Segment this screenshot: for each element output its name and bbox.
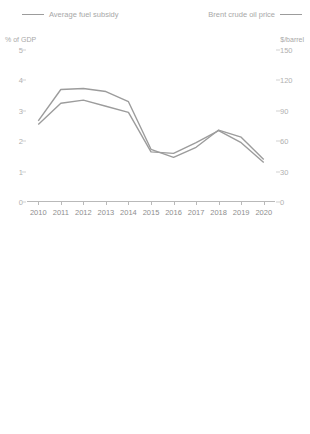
x-tick-mark xyxy=(83,202,84,205)
y-tick-mark xyxy=(22,141,26,142)
x-tick-mark xyxy=(196,202,197,205)
line-brent-crude-oil-price xyxy=(38,89,263,160)
x-tick-label: 2020 xyxy=(255,208,272,217)
x-tick-mark xyxy=(241,202,242,205)
x-tick-label: 2010 xyxy=(30,208,47,217)
x-tick-mark xyxy=(106,202,107,205)
x-tick-mark xyxy=(38,202,39,205)
top-line-series xyxy=(27,50,275,202)
line-average-fuel-subsidy xyxy=(38,100,263,162)
x-tick-label: 2018 xyxy=(210,208,227,217)
legend-line-icon xyxy=(22,14,44,16)
y2-tick-mark xyxy=(276,202,280,203)
x-tick-label: 2015 xyxy=(143,208,160,217)
legend-label: Average fuel subsidy xyxy=(49,10,119,19)
y2-tick-mark xyxy=(276,110,280,111)
y2-tick-label: 120 xyxy=(280,76,293,85)
x-tick-mark xyxy=(264,202,265,205)
legend-label: Brent crude oil price xyxy=(208,10,275,19)
x-tick-mark xyxy=(174,202,175,205)
y-tick-mark xyxy=(22,110,26,111)
y2-tick-label: 150 xyxy=(280,46,293,55)
x-tick-label: 2014 xyxy=(120,208,137,217)
x-tick-label: 2012 xyxy=(75,208,92,217)
x-tick-mark xyxy=(128,202,129,205)
y-tick-mark xyxy=(22,171,26,172)
fuel-subsidy-by-country-chart: 2010 2020 % of GDP 024681012 UZBTKMKAZAZ… xyxy=(0,232,310,434)
y2-tick-mark xyxy=(276,50,280,51)
legend-item-brent-crude-oil-price: Brent crude oil price xyxy=(208,10,302,19)
fuel-subsidy-oil-price-chart: Average fuel subsidy Brent crude oil pri… xyxy=(0,0,310,222)
y-tick-mark xyxy=(22,50,26,51)
y2-tick-label: 0 xyxy=(280,198,284,207)
y2-tick-label: 60 xyxy=(280,137,288,146)
legend-item-average-fuel-subsidy: Average fuel subsidy xyxy=(22,10,119,19)
top-y-axis-right-title: $/barrel xyxy=(280,36,304,43)
y2-tick-label: 30 xyxy=(280,167,288,176)
y-tick-mark xyxy=(22,80,26,81)
y2-tick-mark xyxy=(276,80,280,81)
x-tick-label: 2019 xyxy=(233,208,250,217)
top-y-axis-left-title: % of GDP xyxy=(5,36,36,43)
x-tick-mark xyxy=(61,202,62,205)
x-tick-mark xyxy=(219,202,220,205)
top-plot-area: 012345 0306090120150 2010201120122013201… xyxy=(27,50,275,202)
x-tick-label: 2017 xyxy=(188,208,205,217)
y-tick-mark xyxy=(22,202,26,203)
top-chart-legend: Average fuel subsidy Brent crude oil pri… xyxy=(0,10,310,24)
y2-tick-mark xyxy=(276,141,280,142)
x-tick-label: 2011 xyxy=(53,208,69,217)
x-tick-label: 2016 xyxy=(165,208,182,217)
x-tick-label: 2013 xyxy=(98,208,115,217)
y2-tick-label: 90 xyxy=(280,106,288,115)
y2-tick-mark xyxy=(276,171,280,172)
legend-line-icon xyxy=(280,14,302,16)
x-tick-mark xyxy=(151,202,152,205)
